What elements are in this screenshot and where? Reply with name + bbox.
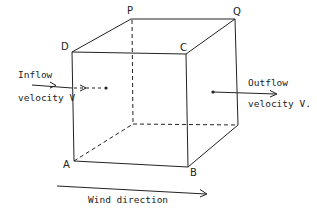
outflow-point xyxy=(211,90,214,93)
vertex-label-A: A xyxy=(63,159,70,170)
edge-B-back xyxy=(188,125,238,167)
edge-CQ xyxy=(186,19,235,54)
hidden-edge-A-back xyxy=(74,124,133,161)
front-face-edges xyxy=(72,52,188,167)
inflow-label-line2: velocity V xyxy=(18,92,75,103)
edge-DP xyxy=(72,19,131,52)
outflow-arrow xyxy=(213,92,276,94)
inflow-point xyxy=(104,86,107,89)
vertex-label-P: P xyxy=(127,5,133,16)
cube-diagram: P Q D C A B Inflow velocity V Outflow ve… xyxy=(0,0,317,214)
wind-direction-label: Wind direction xyxy=(88,194,168,205)
vertex-label-Q: Q xyxy=(233,6,241,17)
inflow-label-line1: Inflow xyxy=(18,69,53,80)
hidden-edge-P-down xyxy=(132,20,133,124)
vertex-label-B: B xyxy=(190,167,197,178)
vertex-label-D: D xyxy=(61,41,69,52)
hidden-edge-back-bottom xyxy=(133,124,238,125)
edge-Q-down xyxy=(235,19,238,125)
outflow-label-line1: Outflow xyxy=(248,77,288,88)
vertex-label-C: C xyxy=(180,42,187,53)
wind-direction-arrow xyxy=(57,186,206,194)
outflow-label-line2: velocity V. xyxy=(248,98,311,109)
